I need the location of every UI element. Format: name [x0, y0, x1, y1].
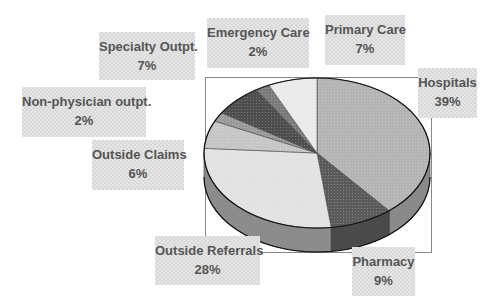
label-pharmacy: Pharmacy 9% [352, 247, 415, 296]
label-percent: 6% [92, 164, 184, 183]
label-percent: 28% [155, 260, 260, 279]
label-percent: 7% [325, 39, 405, 58]
label-primary-care: Primary Care 7% [325, 15, 405, 65]
label-name: Emergency Care [207, 23, 309, 42]
label-hospitals: Hospitals 39% [418, 68, 477, 118]
label-specialty-outpt: Specialty Outpt. 7% [99, 32, 195, 80]
label-non-physician-outpt: Non-physician outpt. 2% [22, 87, 146, 137]
label-emergency-care: Emergency Care 2% [207, 18, 309, 68]
label-percent: 9% [352, 271, 415, 290]
label-outside-referrals: Outside Referrals 28% [155, 236, 260, 285]
label-name: Non-physician outpt. [22, 92, 146, 111]
label-name: Outside Referrals [155, 241, 260, 260]
label-name: Pharmacy [352, 252, 415, 271]
label-name: Primary Care [325, 20, 405, 39]
label-percent: 2% [22, 111, 146, 130]
label-name: Outside Claims [92, 145, 184, 164]
label-percent: 2% [207, 42, 309, 61]
label-name: Hospitals [418, 73, 477, 92]
pie-top-face [204, 78, 430, 228]
label-percent: 7% [99, 56, 195, 75]
label-percent: 39% [418, 92, 477, 111]
label-outside-claims: Outside Claims 6% [92, 140, 184, 190]
label-name: Specialty Outpt. [99, 37, 195, 56]
